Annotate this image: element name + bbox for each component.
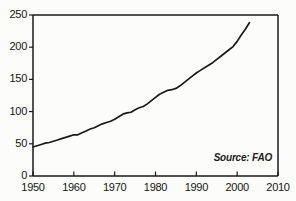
- x-axis-tick-label: 1970: [95, 181, 135, 193]
- x-axis-tick-label: 1990: [176, 181, 216, 193]
- chart-figure: Million Tons 050100150200250 19501960197…: [0, 0, 296, 201]
- y-axis-tick-label: 250: [0, 8, 27, 20]
- y-axis-tick-label: 50: [0, 137, 27, 149]
- y-axis-tick-label: 200: [0, 40, 27, 52]
- y-axis-tick-label: 0: [0, 169, 27, 181]
- x-axis-tick-label: 2010: [258, 181, 296, 193]
- x-axis-tick-label: 1960: [54, 181, 94, 193]
- source-annotation: Source: FAO: [214, 152, 272, 163]
- x-axis-tick-label: 1950: [13, 181, 53, 193]
- y-axis-tick-label: 100: [0, 105, 27, 117]
- x-axis-tick-label: 2000: [217, 181, 257, 193]
- y-axis-tick-label: 150: [0, 72, 27, 84]
- chart-background: [0, 0, 296, 201]
- line-chart-canvas: [0, 0, 296, 201]
- x-axis-tick-label: 1980: [136, 181, 176, 193]
